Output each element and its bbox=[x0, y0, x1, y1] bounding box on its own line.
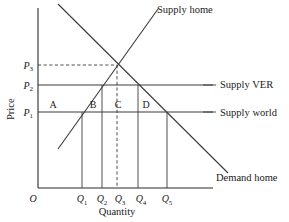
supply-home-label: Supply home bbox=[157, 4, 213, 15]
quantity-tick-q1: Q1 bbox=[77, 193, 88, 207]
quantity-tick-q4-sub: 4 bbox=[143, 199, 147, 207]
region-label-d: D bbox=[142, 99, 149, 110]
quantity-tick-q3-sub: 3 bbox=[122, 199, 126, 207]
ver-welfare-chart: Price Quantity O P3 P2 P1 Q1 Q2 Q3 Q4 Q5… bbox=[0, 0, 289, 222]
quantity-tick-q2-sub: 2 bbox=[104, 199, 108, 207]
quantity-tick-q4: Q4 bbox=[136, 193, 147, 207]
supply-ver-label: Supply VER bbox=[220, 79, 273, 90]
demand-home-label: Demand home bbox=[216, 172, 278, 183]
price-tick-p2: P2 bbox=[22, 80, 33, 94]
price-tick-p2-sub: 2 bbox=[30, 85, 34, 93]
region-label-a: A bbox=[49, 99, 57, 110]
price-tick-p3-base: P bbox=[22, 60, 29, 71]
x-axis-label: Quantity bbox=[99, 206, 136, 217]
quantity-tick-q5: Q5 bbox=[162, 193, 173, 207]
supply-home-curve bbox=[58, 9, 158, 149]
economics-diagram: Price Quantity O P3 P2 P1 Q1 Q2 Q3 Q4 Q5… bbox=[0, 0, 289, 222]
quantity-tick-q3: Q3 bbox=[115, 193, 126, 207]
price-tick-p1-sub: 1 bbox=[30, 112, 34, 120]
y-axis-label: Price bbox=[5, 98, 16, 120]
quantity-tick-q2: Q2 bbox=[97, 193, 108, 207]
region-label-b: B bbox=[90, 99, 97, 110]
price-tick-p3: P3 bbox=[22, 60, 33, 74]
origin-label: O bbox=[29, 193, 36, 204]
price-tick-p3-sub: 3 bbox=[30, 65, 34, 73]
supply-world-label: Supply world bbox=[220, 107, 278, 118]
price-tick-p1-base: P bbox=[22, 107, 29, 118]
quantity-tick-q1-sub: 1 bbox=[84, 199, 88, 207]
region-label-c: C bbox=[115, 99, 122, 110]
price-tick-p2-base: P bbox=[22, 80, 29, 91]
quantity-tick-q5-sub: 5 bbox=[169, 199, 173, 207]
price-tick-p1: P1 bbox=[22, 107, 33, 121]
